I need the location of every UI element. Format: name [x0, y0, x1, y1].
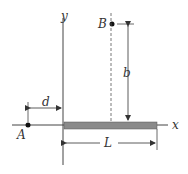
d-dimension-label: d [42, 95, 50, 109]
point-b-label: B [97, 17, 107, 31]
point-a-label: A [16, 128, 26, 142]
l-dimension-label: L [103, 136, 112, 150]
rod [64, 122, 157, 129]
rod-diagram: y x A B b d L [0, 0, 188, 174]
b-dimension-label: b [123, 66, 131, 80]
point-b [110, 22, 115, 27]
point-a [26, 123, 31, 128]
y-axis-label: y [60, 9, 68, 23]
x-axis-label: x [172, 118, 179, 132]
